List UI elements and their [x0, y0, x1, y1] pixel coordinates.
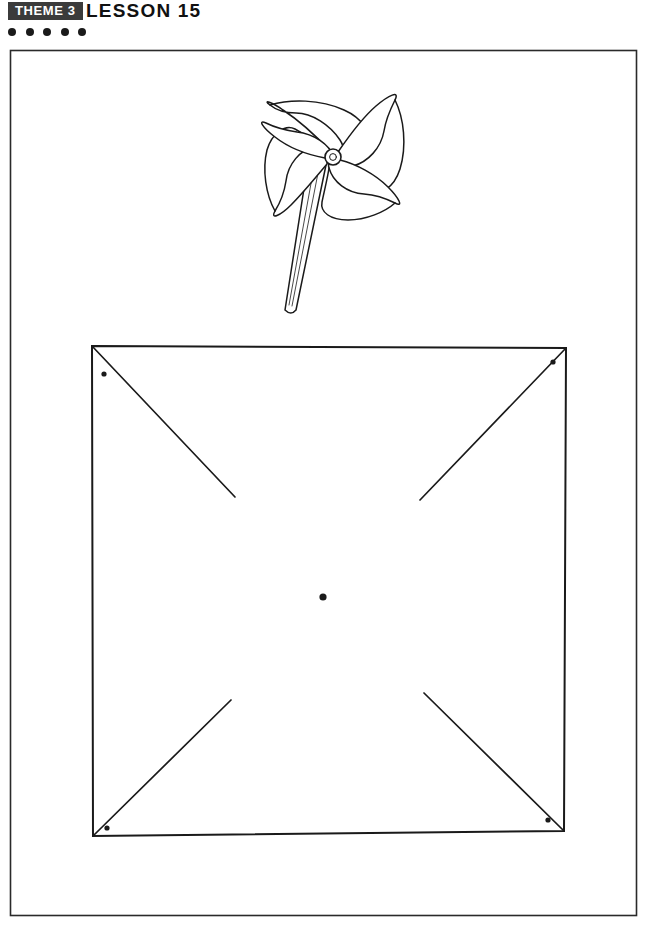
- punch-dot-bottom-left: [104, 825, 109, 830]
- punch-dot-top-left: [101, 371, 106, 376]
- square-template: [92, 346, 566, 836]
- punch-dot-bottom-right: [545, 817, 550, 822]
- punch-dot-top-right: [550, 359, 555, 364]
- punch-dot-center: [319, 593, 326, 600]
- worksheet-page: [0, 0, 656, 928]
- pinwheel-hub-inner: [330, 154, 337, 161]
